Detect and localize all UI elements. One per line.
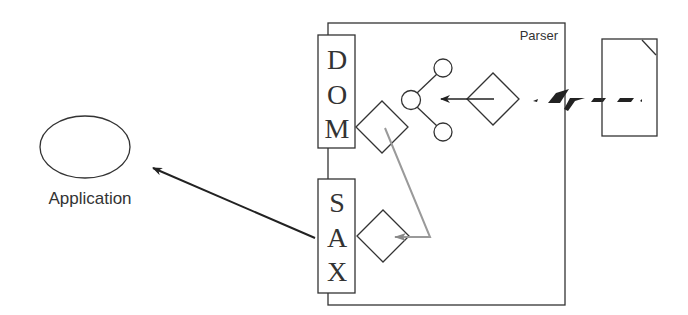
xml-document-icon <box>602 39 657 136</box>
sax-letter-x: X <box>327 256 347 287</box>
application-node: Application <box>40 116 132 208</box>
dom-letter-o: O <box>327 79 347 110</box>
input-stream-dashes <box>533 89 642 111</box>
application-ellipse <box>40 116 130 178</box>
tree-root-node <box>402 91 421 110</box>
sax-letter-a: A <box>327 222 348 253</box>
sax-box: S A X <box>318 179 355 293</box>
application-label: Application <box>48 189 131 208</box>
dom-box: D O M <box>318 35 355 148</box>
sax-letter-s: S <box>329 187 345 218</box>
tree-child-node-top <box>434 59 452 77</box>
dom-letter-d: D <box>327 44 347 75</box>
tree-child-node-bottom <box>434 123 452 141</box>
tree-icon <box>402 59 453 141</box>
sax-to-application-arrow <box>153 168 315 238</box>
parser-label: Parser <box>520 28 559 43</box>
dom-diamond <box>356 101 408 153</box>
diagram-canvas: Application Parser D O M S A X <box>0 0 688 315</box>
dom-letter-m: M <box>325 113 350 144</box>
